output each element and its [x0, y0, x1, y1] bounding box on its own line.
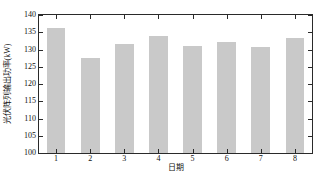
- x-axis-tick-top: [158, 15, 159, 19]
- y-axis-tick-label: 110: [24, 115, 36, 123]
- y-axis-tick-label: 135: [24, 28, 36, 36]
- x-axis-tick-label: 4: [156, 155, 160, 163]
- y-axis-tick: [39, 32, 43, 33]
- y-axis-title: 光伏阵列输出功率(kW): [4, 44, 12, 125]
- x-axis-tick-top: [227, 15, 228, 19]
- y-axis-tick-right: [308, 32, 312, 33]
- y-axis-tick: [39, 119, 43, 120]
- y-axis-tick-label: 105: [24, 132, 36, 140]
- x-axis-tick: [124, 149, 125, 153]
- bar: [81, 58, 100, 153]
- x-axis-tick-label: 8: [293, 155, 297, 163]
- x-axis-tick-top: [56, 15, 57, 19]
- x-axis-tick-label: 3: [122, 155, 126, 163]
- x-axis-tick-label: 6: [225, 155, 229, 163]
- bar: [183, 46, 202, 153]
- x-axis-title: 日期: [38, 164, 313, 172]
- y-axis-tick-right: [308, 153, 312, 154]
- x-axis-tick: [90, 149, 91, 153]
- y-axis-tick-right: [308, 67, 312, 68]
- x-axis-tick-label: 7: [259, 155, 263, 163]
- bar-series: [39, 15, 312, 153]
- y-axis-tick-label: 100: [24, 149, 36, 157]
- y-axis-tick-label: 120: [24, 80, 36, 88]
- x-axis-tick-label: 1: [54, 155, 58, 163]
- x-axis-tick: [227, 149, 228, 153]
- y-axis-tick-right: [308, 136, 312, 137]
- y-axis-tick-right: [308, 50, 312, 51]
- y-axis-tick-right: [308, 101, 312, 102]
- x-axis-tick: [56, 149, 57, 153]
- bar: [115, 44, 134, 153]
- y-axis-tick: [39, 15, 43, 16]
- x-axis-tick-label: 5: [191, 155, 195, 163]
- x-axis-tick-label: 2: [88, 155, 92, 163]
- x-axis-tick-top: [90, 15, 91, 19]
- y-axis-tick-right: [308, 119, 312, 120]
- plot-area: 100105110115120125130135140 12345678: [38, 14, 313, 154]
- y-axis-tick: [39, 101, 43, 102]
- y-axis-tick: [39, 153, 43, 154]
- y-axis-tick-label: 130: [24, 46, 36, 54]
- x-axis-tick-top: [124, 15, 125, 19]
- bar: [251, 47, 270, 153]
- bar: [217, 42, 236, 153]
- x-axis-tick-top: [193, 15, 194, 19]
- x-axis-tick: [158, 149, 159, 153]
- bar: [47, 28, 66, 153]
- y-axis-tick: [39, 50, 43, 51]
- y-axis-tick-right: [308, 15, 312, 16]
- x-axis-tick-top: [261, 15, 262, 19]
- y-axis-tick: [39, 67, 43, 68]
- y-axis-tick: [39, 84, 43, 85]
- x-axis-tick-top: [295, 15, 296, 19]
- bar: [149, 36, 168, 153]
- bar: [286, 38, 305, 153]
- y-axis-tick: [39, 136, 43, 137]
- x-axis-tick: [295, 149, 296, 153]
- chart-figure: 100105110115120125130135140 12345678 日期 …: [0, 0, 332, 179]
- x-axis-tick: [261, 149, 262, 153]
- x-axis-tick: [193, 149, 194, 153]
- y-axis-tick-label: 115: [24, 97, 36, 105]
- y-axis-tick-label: 140: [24, 11, 36, 19]
- y-axis-tick-label: 125: [24, 63, 36, 71]
- y-axis-tick-right: [308, 84, 312, 85]
